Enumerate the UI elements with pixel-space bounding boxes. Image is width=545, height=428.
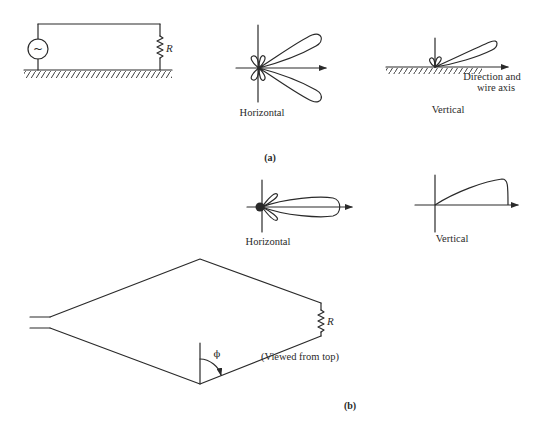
horizontal-pattern-b: Horizontal [246,180,352,247]
viewed-from-top-note: (Viewed from top) [261,351,340,363]
direction-label-line1: Direction and [463,71,521,82]
resistor-label: R [165,42,173,54]
caption-a: (a) [264,152,276,164]
horizontal-label-b: Horizontal [246,236,291,247]
direction-label-line2: wire axis [477,82,515,93]
rhombic-antenna: R ϕ (Viewed from top) [30,259,340,384]
termination-resistor-label: R [326,315,334,327]
ground-plane [24,70,172,78]
horizontal-pattern-a: Horizontal [236,25,326,118]
resistor-icon [157,24,163,70]
vertical-label-a: Vertical [432,104,465,115]
ac-source-icon: ~ [28,24,48,70]
angle-phi-label: ϕ [214,348,221,359]
vertical-pattern-b: Vertical [415,175,518,244]
termination-resistor-icon [318,303,324,336]
beverage-antenna-circuit: ~ R [24,24,173,78]
caption-b: (b) [344,400,356,412]
angle-arc-arrow [200,359,221,375]
vertical-pattern-a: Direction and wire axis Vertical [386,38,521,115]
antenna-figure: ~ R Horizontal Direction and [0,0,545,428]
rhombus-upper-legs [50,259,321,317]
source-symbol: ~ [33,42,43,56]
vertical-label-b: Vertical [436,233,469,244]
minor-lobes-cluster [256,203,265,212]
horizontal-label-a: Horizontal [240,107,285,118]
